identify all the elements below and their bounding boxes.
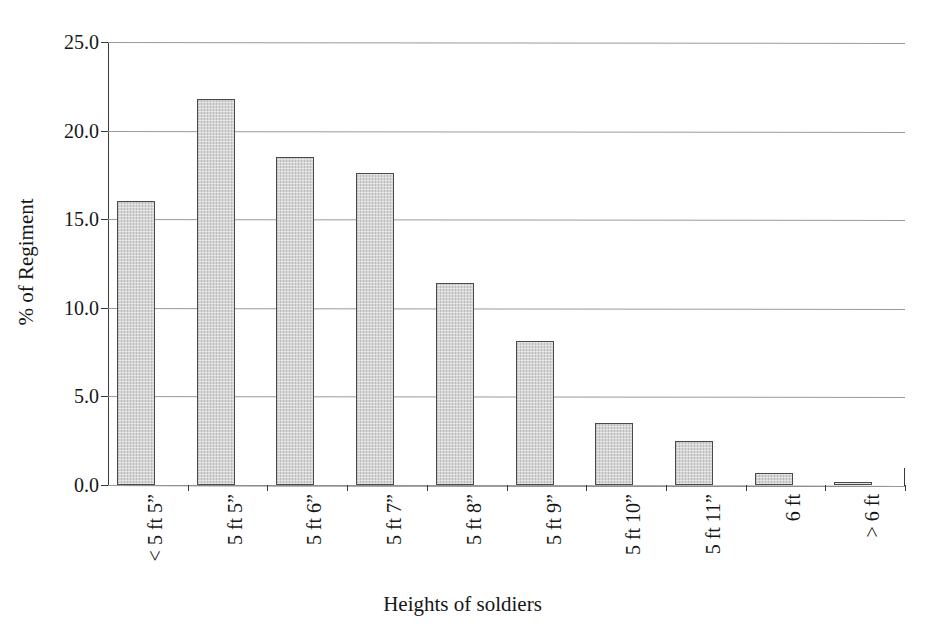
bar[interactable] — [595, 423, 633, 485]
x-tick-mark — [188, 485, 189, 491]
x-category-label: 5 ft 11” — [703, 494, 723, 554]
y-tick-mark — [101, 485, 108, 486]
x-category-label: 5 ft 6” — [304, 494, 324, 545]
y-tick-label: 10.0 — [64, 298, 99, 318]
x-tick-mark — [267, 485, 268, 491]
bar[interactable] — [356, 173, 394, 485]
bar[interactable] — [675, 441, 713, 485]
x-tick-mark — [427, 485, 428, 491]
bar[interactable] — [436, 283, 474, 485]
x-category-label: < 5 ft 5” — [145, 494, 165, 561]
x-category-label: 5 ft 8” — [464, 494, 484, 545]
x-category-label: > 6 ft — [862, 494, 882, 538]
x-tick-mark — [507, 485, 508, 491]
bar[interactable] — [516, 341, 554, 485]
bar[interactable] — [834, 482, 872, 485]
x-category-label: 5 ft 9” — [544, 494, 564, 545]
x-tick-mark — [825, 485, 826, 491]
y-tick-label: 15.0 — [64, 209, 99, 229]
y-tick-mark — [101, 219, 108, 220]
y-tick-label: 20.0 — [64, 121, 99, 141]
y-tick-mark — [101, 396, 108, 397]
y-tick-mark — [101, 308, 108, 309]
x-category-label: 5 ft 5” — [225, 494, 245, 545]
y-tick-label: 5.0 — [74, 386, 99, 406]
bar-chart: 25.020.015.010.05.00.0 % of Regiment Hei… — [0, 0, 925, 627]
bar[interactable] — [197, 99, 235, 485]
y-tick-label: 0.0 — [74, 475, 99, 495]
y-tick-label: 25.0 — [64, 32, 99, 52]
x-category-label: 6 ft — [783, 494, 803, 521]
plot-area: 25.020.015.010.05.00.0 — [108, 42, 905, 485]
x-tick-mark — [586, 485, 587, 491]
y-tick-mark — [101, 131, 108, 132]
y-tick-mark — [101, 42, 108, 43]
x-tick-mark — [746, 485, 747, 491]
x-category-label: 5 ft 10” — [623, 494, 643, 555]
x-axis-title: Heights of soldiers — [0, 592, 925, 617]
x-tick-mark — [666, 485, 667, 491]
x-category-label: 5 ft 7” — [384, 494, 404, 545]
y-axis-title: % of Regiment — [14, 198, 39, 325]
gridline — [108, 42, 905, 44]
bar[interactable] — [117, 201, 155, 485]
x-tick-mark — [347, 485, 348, 491]
bar[interactable] — [755, 473, 793, 485]
bar[interactable] — [276, 157, 314, 485]
x-tick-mark — [905, 485, 906, 491]
